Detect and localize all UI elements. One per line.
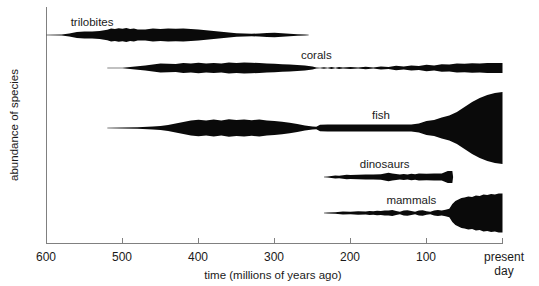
- x-tick-label-300: 300: [264, 250, 284, 264]
- x-tick-label-present-day: day: [494, 264, 513, 278]
- y-axis-title: abundance of species: [8, 69, 20, 181]
- series-label-dinosaurs: dinosaurs: [360, 158, 410, 170]
- x-axis-ticks: [47, 238, 503, 244]
- x-tick-label-100: 100: [416, 250, 436, 264]
- spindle-diagram-figure: 600 500 400 300 200 100 present day time…: [0, 0, 539, 286]
- series-label-mammals: mammals: [386, 194, 436, 206]
- spindle-corals: [107, 62, 502, 73]
- spindle-fish: [107, 92, 502, 164]
- series-label-corals: corals: [301, 49, 332, 61]
- spindle-trilobites: [47, 28, 309, 42]
- x-tick-label-400: 400: [188, 250, 208, 264]
- plot-canvas: 600 500 400 300 200 100 present day time…: [0, 0, 539, 286]
- x-tick-label-600: 600: [36, 250, 56, 264]
- x-tick-label-200: 200: [340, 250, 360, 264]
- series-label-fish: fish: [372, 109, 390, 121]
- x-tick-label-500: 500: [112, 250, 132, 264]
- spindle-dinosaurs: [324, 171, 453, 183]
- x-tick-label-present: present: [484, 250, 525, 264]
- x-axis-title: time (millions of years ago): [204, 269, 342, 281]
- series-label-trilobites: trilobites: [71, 16, 114, 28]
